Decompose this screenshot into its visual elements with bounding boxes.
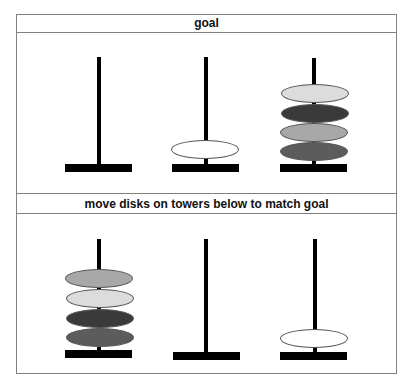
goal-disk-light-gray (281, 84, 349, 103)
tower-3-base[interactable] (280, 352, 347, 360)
disk-white[interactable] (280, 329, 348, 348)
tower-1-base[interactable] (65, 350, 132, 358)
goal-tower-2-base (172, 164, 239, 172)
disk-medium-gray[interactable] (65, 269, 133, 288)
goal-tower-1-pole (97, 57, 101, 165)
disk-charcoal[interactable] (66, 328, 134, 347)
disk-dark-gray[interactable] (66, 309, 134, 328)
goal-disk-medium-gray (280, 123, 348, 142)
disk-light-gray[interactable] (66, 289, 134, 308)
tower-2-pole[interactable] (204, 239, 208, 353)
goal-tower-3-base (280, 164, 347, 172)
goal-disk-dark-gray (281, 104, 349, 123)
section-divider (16, 193, 397, 194)
goal-header: goal (16, 14, 397, 33)
tower-2-base[interactable] (173, 352, 240, 360)
goal-disk-charcoal (280, 142, 348, 161)
goal-tower-1-base (65, 164, 132, 172)
instruction-header: move disks on towers below to match goal (16, 195, 397, 214)
goal-disk-white (171, 140, 239, 159)
